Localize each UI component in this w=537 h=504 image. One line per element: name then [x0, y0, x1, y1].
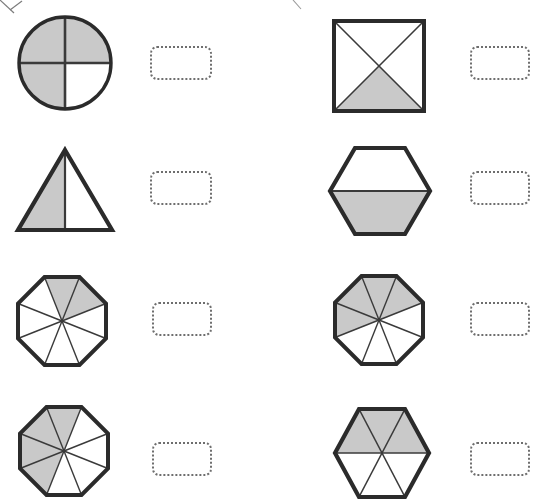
shape-octagon-eighths-a: [13, 272, 111, 370]
crop-artifact-right: [292, 0, 306, 10]
answer-box-4[interactable]: [470, 171, 530, 205]
shape-octagon-eighths-b: [330, 271, 428, 369]
answer-box-6[interactable]: [470, 302, 530, 336]
shape-circle-quarters: [13, 11, 117, 115]
answer-box-8[interactable]: [470, 442, 530, 476]
answer-box-2[interactable]: [470, 46, 530, 80]
shape-hexagon-sixths: [330, 404, 434, 502]
answer-box-3[interactable]: [150, 171, 212, 205]
worksheet-page: [0, 0, 537, 504]
answer-box-5[interactable]: [152, 302, 212, 336]
answer-box-7[interactable]: [152, 442, 212, 476]
shape-hexagon-halves: [325, 143, 435, 239]
shape-triangle-halves: [13, 145, 117, 235]
shape-square-diagonals: [330, 17, 428, 115]
answer-box-1[interactable]: [150, 46, 212, 80]
shape-octagon-eighths-c: [15, 402, 113, 500]
